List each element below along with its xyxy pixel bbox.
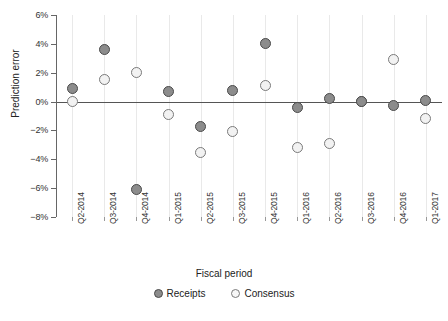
data-point-receipts [260, 38, 271, 49]
x-axis-tick-label: Q4-2016 [398, 192, 408, 224]
data-point-receipts [67, 83, 78, 94]
x-axis-tick-label: Q2-2014 [76, 192, 86, 224]
prediction-error-scatter-chart: 6%4%2%0%−2%−4%−6%−8% Prediction error Q2… [0, 0, 448, 321]
x-axis-tick [394, 217, 395, 221]
legend-item-label: Consensus [244, 288, 294, 299]
x-axis-tick-label: Q4-2014 [140, 192, 150, 224]
data-point-consensus [292, 142, 303, 153]
open-circle-icon [231, 289, 240, 298]
gridline [233, 15, 234, 217]
data-point-receipts [227, 85, 238, 96]
gridline [329, 15, 330, 217]
x-axis-tick [136, 217, 137, 221]
zero-reference-line [56, 102, 442, 103]
filled-circle-icon [154, 289, 163, 298]
data-point-consensus [131, 67, 142, 78]
data-point-receipts [99, 44, 110, 55]
x-axis-tick [329, 217, 330, 221]
y-axis-tick [51, 102, 56, 103]
data-point-receipts [420, 95, 431, 106]
x-axis-tick [426, 217, 427, 221]
y-axis-tick [51, 44, 56, 45]
legend-item-label: Receipts [167, 288, 206, 299]
data-point-receipts [292, 102, 303, 113]
x-axis-tick-label: Q2-2016 [333, 192, 343, 224]
x-axis-tick [72, 217, 73, 221]
data-point-receipts [195, 121, 206, 132]
data-point-consensus [195, 147, 206, 158]
x-axis-tick-label: Q3-2014 [108, 192, 118, 224]
y-axis-tick [51, 130, 56, 131]
x-axis-tick-label: Q3-2015 [237, 192, 247, 224]
x-axis-tick-label: Q1-2015 [173, 192, 183, 224]
data-point-consensus [420, 113, 431, 124]
x-axis-tick [265, 217, 266, 221]
data-point-consensus [227, 126, 238, 137]
y-axis-tick-label: −6% [14, 184, 48, 193]
x-axis-tick [233, 217, 234, 221]
y-axis-tick [51, 159, 56, 160]
gridline [394, 15, 395, 217]
data-point-receipts [163, 86, 174, 97]
gridline [72, 15, 73, 217]
gridline [297, 15, 298, 217]
x-axis-tick-label: Q1-2017 [430, 192, 440, 224]
x-axis-tick-label: Q1-2016 [301, 192, 311, 224]
data-point-receipts [356, 96, 367, 107]
data-point-consensus [260, 80, 271, 91]
y-axis-tick [51, 217, 56, 218]
x-axis-tick-label: Q3-2016 [366, 192, 376, 224]
gridline [362, 15, 363, 217]
data-point-consensus [163, 109, 174, 120]
data-point-receipts [388, 100, 399, 111]
plot-area [56, 15, 442, 217]
y-axis-title: Prediction error [10, 24, 21, 144]
data-point-consensus [388, 54, 399, 65]
y-axis-line [56, 15, 57, 217]
legend-item-receipts[interactable]: Receipts [154, 288, 206, 299]
x-axis-tick [104, 217, 105, 221]
data-point-consensus [324, 138, 335, 149]
y-axis-tick-label: −8% [14, 213, 48, 222]
gridline [201, 15, 202, 217]
y-axis-tick [51, 15, 56, 16]
x-axis-tick-label: Q2-2015 [205, 192, 215, 224]
y-axis-tick [51, 188, 56, 189]
y-axis-tick-label: −4% [14, 155, 48, 164]
x-axis-tick [362, 217, 363, 221]
y-axis-tick-label: 6% [14, 11, 48, 20]
data-point-consensus [67, 96, 78, 107]
data-point-receipts [324, 93, 335, 104]
data-point-consensus [99, 74, 110, 85]
legend-item-consensus[interactable]: Consensus [231, 288, 294, 299]
chart-legend: ReceiptsConsensus [0, 288, 448, 299]
x-axis-tick [201, 217, 202, 221]
x-axis-tick [297, 217, 298, 221]
x-axis-title: Fiscal period [0, 268, 448, 279]
y-axis-tick [51, 73, 56, 74]
x-axis-tick [169, 217, 170, 221]
x-axis-tick-label: Q4-2015 [269, 192, 279, 224]
